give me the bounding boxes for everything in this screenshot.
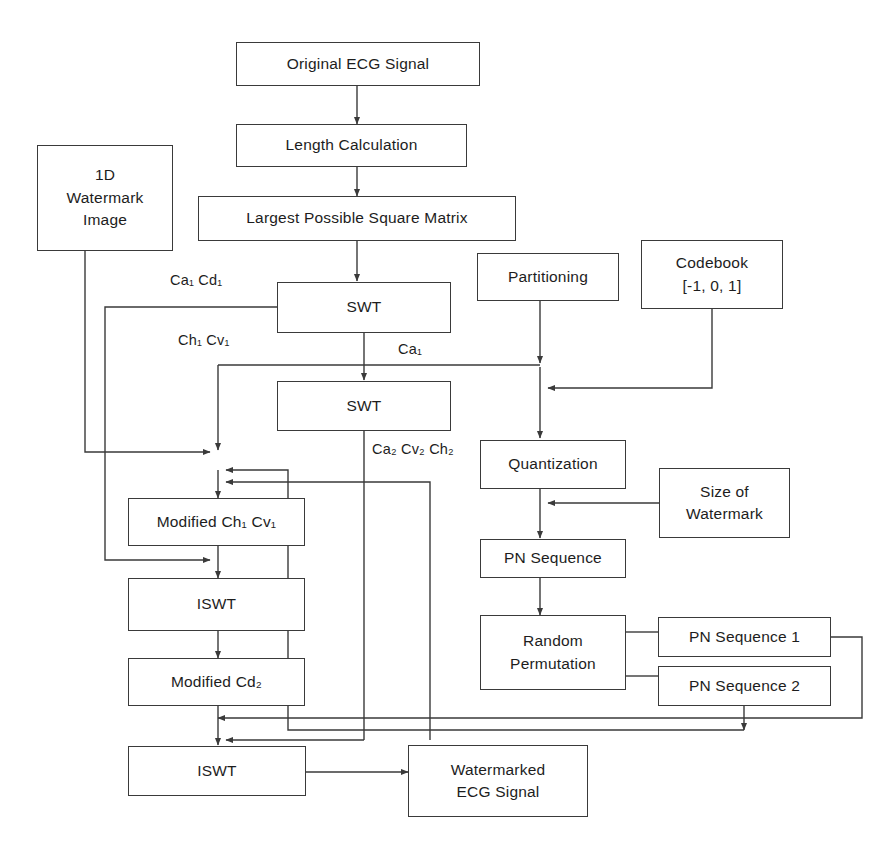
- node-label-line2: Watermark: [686, 503, 763, 525]
- node-label-line2: [-1, 0, 1]: [683, 275, 742, 297]
- node-label-line1: Watermarked: [451, 759, 546, 781]
- node-largest-possible-square-matrix[interactable]: Largest Possible Square Matrix: [198, 196, 516, 241]
- node-pn-sequence-1[interactable]: PN Sequence 1: [658, 617, 831, 657]
- node-label: Quantization: [508, 453, 597, 475]
- node-label: Modified Ch₁ Cv₁: [157, 511, 277, 533]
- edge-label-ca1: Ca₁: [396, 341, 424, 357]
- node-label: Partitioning: [508, 266, 588, 288]
- node-iswt-1[interactable]: ISWT: [128, 578, 305, 631]
- edge-label-ca2-cv2-ch2: Ca₂ Cv₂ Ch₂: [370, 441, 456, 457]
- node-iswt-2[interactable]: ISWT: [128, 746, 306, 796]
- node-label-line2: ECG Signal: [457, 781, 540, 803]
- edge-codebook-to-junction: [548, 309, 712, 388]
- node-1d-watermark-image[interactable]: 1D Watermark Image: [37, 145, 173, 251]
- node-label: Length Calculation: [286, 134, 418, 156]
- node-pn-sequence[interactable]: PN Sequence: [480, 539, 626, 578]
- node-modified-ch1-cv1[interactable]: Modified Ch₁ Cv₁: [128, 498, 305, 546]
- node-modified-cd2[interactable]: Modified Cd₂: [128, 658, 305, 706]
- node-label: Modified Cd₂: [171, 671, 262, 693]
- node-label: SWT: [346, 395, 381, 417]
- node-partitioning[interactable]: Partitioning: [477, 253, 619, 301]
- node-codebook[interactable]: Codebook [-1, 0, 1]: [641, 240, 783, 309]
- node-length-calculation[interactable]: Length Calculation: [236, 124, 467, 167]
- node-label-line2: Permutation: [510, 653, 596, 675]
- edge-label-ca1-cd1: Ca₁ Cd₁: [168, 272, 224, 288]
- node-label: ISWT: [197, 593, 237, 615]
- node-label: ISWT: [197, 760, 237, 782]
- node-quantization[interactable]: Quantization: [480, 440, 626, 489]
- node-label-line1: Codebook: [676, 252, 748, 274]
- node-label-line1: 1D: [95, 164, 115, 186]
- node-label-line2: Watermark: [66, 187, 143, 209]
- node-label: PN Sequence: [504, 547, 602, 569]
- node-label: PN Sequence 2: [689, 675, 800, 697]
- node-original-ecg-signal[interactable]: Original ECG Signal: [236, 42, 480, 86]
- node-swt-level-2[interactable]: SWT: [277, 381, 451, 431]
- node-label: Largest Possible Square Matrix: [246, 207, 467, 229]
- edge-ca2-branch-to-merge: [226, 482, 430, 489]
- node-label: Original ECG Signal: [287, 53, 430, 75]
- node-label-line1: Size of: [700, 481, 749, 503]
- node-size-of-watermark[interactable]: Size of Watermark: [659, 468, 790, 538]
- node-label: SWT: [346, 296, 381, 318]
- edge-label-ch1-cv1: Ch₁ Cv₁: [176, 332, 231, 348]
- node-random-permutation[interactable]: Random Permutation: [480, 615, 626, 690]
- flowchart-canvas: Original ECG Signal Length Calculation L…: [0, 0, 890, 841]
- node-watermarked-ecg-signal[interactable]: Watermarked ECG Signal: [408, 745, 588, 817]
- node-swt-level-1[interactable]: SWT: [277, 282, 451, 333]
- node-pn-sequence-2[interactable]: PN Sequence 2: [658, 666, 831, 706]
- node-label: PN Sequence 1: [689, 626, 800, 648]
- node-label-line3: Image: [83, 209, 127, 231]
- node-label-line1: Random: [523, 630, 583, 652]
